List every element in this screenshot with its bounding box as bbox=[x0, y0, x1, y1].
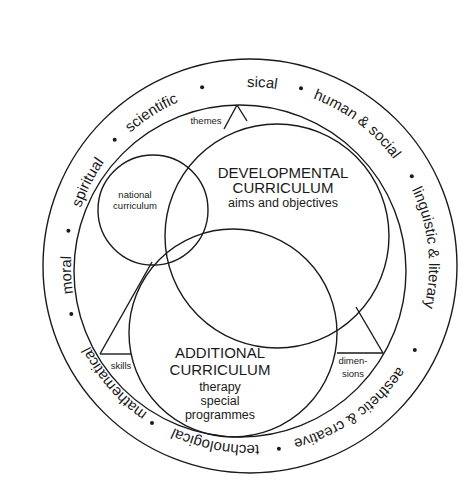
separator-dot bbox=[150, 421, 154, 425]
ring-label-human-social: human & social bbox=[312, 85, 405, 161]
separator-dot bbox=[113, 138, 117, 142]
ring-label-linguistic-literary: linguistic & literary bbox=[409, 184, 443, 312]
separator-dot bbox=[69, 312, 73, 316]
triangle-label-skills: skills bbox=[111, 360, 132, 371]
triangle-label-dimensions-line1: dimen- bbox=[338, 355, 367, 366]
national-label-line1: national bbox=[118, 189, 151, 200]
triangle-label-themes: themes bbox=[190, 115, 221, 126]
developmental-subtitle: aims and objectives bbox=[228, 196, 338, 210]
national-label-line2: curriculum bbox=[113, 200, 157, 211]
additional-sub-line3: programmes bbox=[185, 408, 255, 422]
curriculum-diagram: physicalhuman & sociallinguistic & liter… bbox=[0, 0, 464, 494]
triangle-label-dimensions-line2: sions bbox=[342, 368, 364, 379]
additional-sub-line1: therapy bbox=[199, 380, 241, 394]
ring-label-technological: technological bbox=[168, 425, 260, 459]
separator-dot bbox=[200, 85, 204, 89]
separator-dot bbox=[299, 86, 303, 90]
separator-dot bbox=[277, 447, 281, 451]
separator-dot bbox=[66, 229, 70, 233]
additional-sub-line2: special bbox=[201, 394, 240, 408]
developmental-title-line2: CURRICULUM bbox=[233, 179, 334, 196]
separator-dot bbox=[410, 174, 414, 178]
additional-title-line2: CURRICULUM bbox=[170, 361, 271, 378]
additional-title-line1: ADDITIONAL bbox=[175, 344, 265, 361]
ring-label-physical: physical bbox=[0, 0, 279, 92]
ring-label-scientific: scientific bbox=[121, 89, 180, 135]
ring-label-moral: moral bbox=[57, 255, 76, 295]
ring-label-mathematical: mathematical bbox=[77, 345, 149, 424]
developmental-curriculum-circle bbox=[165, 124, 389, 348]
separator-dot bbox=[413, 348, 417, 352]
